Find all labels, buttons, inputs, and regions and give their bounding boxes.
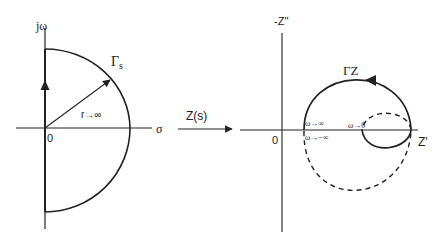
mapping-arrow-group: Z(s) — [178, 109, 232, 129]
sigma-label: σ — [156, 122, 163, 136]
impedance-plane-plot: -Z'' Z' 0 ΓZ ω→∞ ω→−∞ ω→0 — [240, 15, 428, 232]
nyquist-mapping-diagram: jω σ 0 r→∞ Γs Z(s) -Z'' Z' 0 ΓZ ω→∞ ω→−∞… — [0, 0, 445, 236]
gamma-s-contour — [45, 49, 130, 212]
j-omega-label: jω — [35, 19, 47, 33]
gamma-z-label: ΓZ — [343, 63, 359, 78]
neg-z-imag-label: -Z'' — [274, 15, 289, 27]
s-plane-plot: jω σ 0 r→∞ Γs — [16, 19, 163, 229]
contour-direction-arrow-icon — [365, 75, 376, 86]
radius-arrow — [45, 80, 110, 128]
omega-to-neg-inf-label: ω→−∞ — [305, 133, 329, 142]
right-origin-label: 0 — [272, 134, 278, 146]
left-origin-label: 0 — [47, 132, 53, 144]
radius-label: r→∞ — [81, 109, 101, 120]
z-real-label: Z' — [418, 135, 428, 149]
up-arrow-icon — [41, 80, 50, 90]
mapping-label: Z(s) — [186, 109, 207, 123]
omega-to-zero-label: ω→0 — [348, 121, 365, 130]
omega-to-inf-label: ω→∞ — [305, 119, 324, 128]
gamma-s-label: Γs — [111, 54, 123, 71]
